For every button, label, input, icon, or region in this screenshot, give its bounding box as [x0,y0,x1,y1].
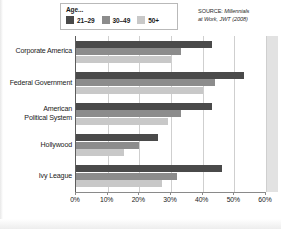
bar [76,134,158,141]
legend-item: 30–49 [102,16,131,24]
source-line2: at Work, JWT (2008) [198,16,248,22]
tick-mark [233,192,234,195]
bar [76,173,177,180]
bar [76,56,171,63]
legend-item: 21–29 [66,16,95,24]
bar [76,142,139,149]
legend-swatch [137,16,145,24]
tick-label: 30% [163,196,176,203]
bar [76,72,244,79]
category-label: Hollywood [0,141,72,150]
bar-group [76,98,266,129]
tick-mark [138,192,139,195]
tick-mark [265,192,266,195]
bar-group [76,130,266,161]
bar [76,79,215,86]
source-line1: Millennials [224,8,249,14]
bar-chart-figure: Corporate AmericaFederal GovernmentAmeri… [0,0,281,229]
legend-item: 50+ [137,16,159,24]
plot-area [75,36,266,192]
tick-mark [170,192,171,195]
bar [76,41,212,48]
tick-label: 0% [70,196,80,203]
tick-mark [202,192,203,195]
bar [76,149,124,156]
legend-label: 50+ [148,17,159,24]
bar-group [76,161,266,192]
y-axis-line [75,36,76,193]
bar-group [76,67,266,98]
bar [76,118,168,125]
legend: Age... 21–2930–4950+ [60,3,178,30]
bar [76,180,162,187]
bar [76,87,203,94]
tick-label: 10% [100,196,113,203]
source-note: SOURCE: Millennials at Work, JWT (2008) [198,8,278,23]
bar [76,103,212,110]
tick-label: 50% [227,196,240,203]
bar [76,48,181,55]
bar [76,110,181,117]
legend-swatch [102,16,110,24]
legend-label: 30–49 [113,17,131,24]
tick-label: 40% [195,196,208,203]
legend-label: 21–29 [77,17,95,24]
plot-right-margin-shade [265,36,278,192]
tick-label: 20% [132,196,145,203]
bar-group [76,36,266,67]
tick-label: 60% [258,196,271,203]
source-lead: SOURCE: [198,8,224,14]
bar [76,165,222,172]
legend-swatch [66,16,74,24]
scan-edge-shade-bottom [0,219,281,229]
category-label: Ivy League [0,172,72,181]
tick-mark [107,192,108,195]
scan-edge-shade-left [0,0,3,229]
tick-mark [75,192,76,195]
category-label: AmericanPolitical System [0,105,72,122]
legend-items: 21–2930–4950+ [66,16,173,24]
legend-title: Age... [66,6,173,14]
category-label: Federal Government [0,79,72,88]
category-label: Corporate America [0,47,72,56]
